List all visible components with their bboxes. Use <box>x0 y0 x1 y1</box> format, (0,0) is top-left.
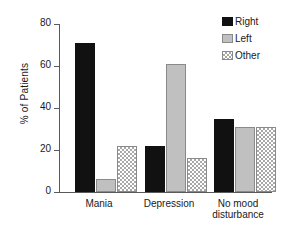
y-tick-label-40: 40 <box>40 101 51 112</box>
x-axis-label-no-mood-disturbance: No mood disturbance <box>202 198 274 220</box>
bar-mania-other <box>117 146 137 192</box>
bar-depression-right <box>145 146 165 192</box>
bar-mania-right <box>75 43 95 192</box>
bar-chart-figure: % of Patients 0 20 40 60 80 <box>0 0 289 232</box>
legend-label-other: Other <box>235 50 260 61</box>
bar-nomood-other <box>256 127 276 192</box>
y-tick-40: 40 <box>54 108 59 109</box>
bar-depression-other <box>187 158 207 192</box>
light-gray-solid-swatch-icon <box>222 34 233 43</box>
y-tick-20: 20 <box>54 150 59 151</box>
checkered-pattern-swatch-icon <box>222 51 233 60</box>
legend-item-right: Right <box>222 14 286 28</box>
x-axis-label-depression: Depression <box>133 198 205 209</box>
legend-label-right: Right <box>235 16 258 27</box>
legend-item-other: Other <box>222 48 286 62</box>
y-tick-label-20: 20 <box>40 143 51 154</box>
legend-item-left: Left <box>222 31 286 45</box>
y-tick-80: 80 <box>54 24 59 25</box>
y-tick-label-80: 80 <box>40 17 51 28</box>
bar-depression-left <box>166 64 186 192</box>
legend-label-left: Left <box>235 33 252 44</box>
black-solid-swatch-icon <box>222 17 233 26</box>
x-axis-line <box>59 192 272 193</box>
bar-mania-left <box>96 179 116 192</box>
y-axis-title: % of Patients <box>19 34 30 154</box>
legend: Right Left Other <box>222 14 286 65</box>
x-axis-label-mania: Mania <box>63 198 135 209</box>
bar-nomood-right <box>214 119 234 193</box>
y-tick-label-0: 0 <box>45 185 51 196</box>
y-axis-line <box>59 24 60 192</box>
bar-nomood-left <box>235 127 255 192</box>
y-tick-60: 60 <box>54 66 59 67</box>
y-tick-label-60: 60 <box>40 59 51 70</box>
y-tick-0: 0 <box>54 192 59 193</box>
